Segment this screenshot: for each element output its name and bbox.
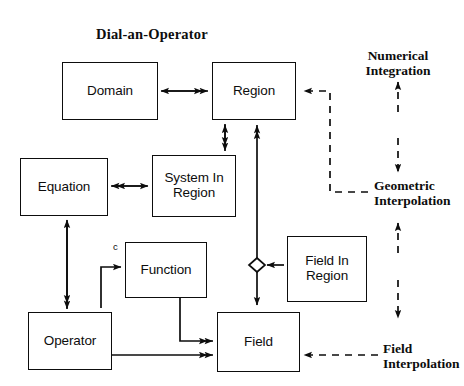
node-field-in-region[interactable]: Field In Region: [287, 236, 367, 302]
annotation-numerical-integration-line2: Integration: [343, 63, 453, 78]
node-domain-label: Domain: [87, 84, 133, 99]
node-system-in-region-label: System In Region: [153, 171, 235, 200]
annotation-numerical-integration-line1: Numerical: [343, 48, 453, 63]
diagram-title: Dial-an-Operator: [96, 26, 208, 43]
diagram-canvas: Dial-an-Operator Domain Region Equation …: [0, 0, 464, 386]
annotation-geometric-interpolation: Geometric Interpolation: [374, 178, 451, 208]
node-field[interactable]: Field: [217, 312, 300, 372]
edge-operator-function: [101, 267, 121, 308]
node-field-label: Field: [244, 335, 273, 350]
node-domain[interactable]: Domain: [62, 62, 158, 120]
annotation-numerical-integration: Numerical Integration: [343, 48, 453, 78]
annotation-geometric-interpolation-line2: Interpolation: [374, 193, 451, 208]
node-system-in-region[interactable]: System In Region: [152, 155, 236, 217]
node-operator[interactable]: Operator: [28, 312, 112, 370]
annotation-geometric-interpolation-line1: Geometric: [374, 178, 451, 193]
edge-function-field: [180, 298, 213, 341]
annotation-field-interpolation: Field Interpolation: [383, 341, 460, 371]
diamond-junction: [249, 258, 265, 272]
annotation-field-interpolation-line2: Interpolation: [383, 356, 460, 371]
node-operator-label: Operator: [44, 334, 96, 349]
node-function[interactable]: Function: [125, 242, 207, 298]
edge-geometric-region: [304, 91, 368, 192]
node-equation-label: Equation: [38, 180, 91, 195]
node-region-label: Region: [233, 84, 275, 99]
node-equation[interactable]: Equation: [20, 158, 108, 216]
node-field-in-region-label: Field In Region: [288, 254, 366, 283]
edge-label-function-input-c: c: [113, 241, 118, 252]
annotation-field-interpolation-line1: Field: [383, 341, 460, 356]
node-region[interactable]: Region: [212, 62, 296, 120]
node-function-label: Function: [141, 263, 192, 278]
